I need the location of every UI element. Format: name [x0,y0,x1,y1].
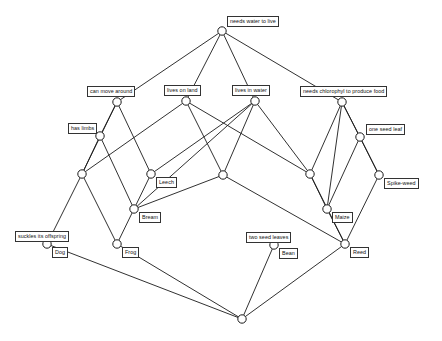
lattice-canvas [0,0,442,341]
lattice-node[interactable] [113,240,121,248]
lattice-node[interactable] [219,171,227,179]
node-label-dog: Dog [52,247,68,258]
node-label-reed: Reed [350,247,369,258]
lattice-edge [138,177,219,208]
lattice-edge [84,178,115,240]
node-label-bean: Bean [279,248,298,259]
concept-lattice-diagram: needs water to livecan move aroundlives … [0,0,442,341]
lattice-edge [84,140,98,170]
lattice-node[interactable] [375,171,383,179]
node-label-frog: Frog [122,247,139,258]
lattice-edge [244,249,273,315]
lattice-edge [119,213,132,240]
lattice-node[interactable] [147,170,155,178]
lattice-edge [362,141,377,171]
lattice-edge [137,104,252,206]
lattice-edge [188,105,221,171]
edges-group [49,33,377,317]
node-label-move: can move around [87,86,135,97]
lattice-node[interactable] [130,205,138,213]
node-label-top: needs water to live [227,16,279,27]
node-label-limbs: has limbs [68,123,97,134]
node-label-suckles-label: suckles its offspring [15,231,69,242]
lattice-edge [329,141,359,205]
node-label-water: lives in water [232,85,270,96]
lattice-edge [190,103,307,172]
node-label-chloro: needs chlorophyl to produce food [300,86,387,97]
lattice-edge [328,106,342,205]
lattice-node[interactable] [238,315,246,323]
lattice-node[interactable] [113,98,121,106]
node-label-spikeweed: Spike-weed [384,178,419,189]
node-label-twoseed-label: two seed leaves [246,232,291,243]
lattice-node[interactable] [356,133,364,141]
lattice-node[interactable] [78,170,86,178]
lattice-node[interactable] [251,97,259,105]
node-label-bream: Bream [139,212,161,223]
lattice-node[interactable] [182,97,190,105]
lattice-node[interactable] [341,240,349,248]
lattice-node[interactable] [338,98,346,106]
node-label-leech: Leech [156,177,177,188]
lattice-node[interactable] [323,205,331,213]
lattice-edge [258,104,308,170]
lattice-edge [312,106,341,170]
lattice-edge [154,103,251,171]
lattice-node[interactable] [306,170,314,178]
lattice-node[interactable] [218,27,226,35]
node-label-land: lives on land [164,85,201,96]
node-label-oneseed: one seed leaf [366,124,405,135]
lattice-edge [51,246,238,318]
node-label-maize: Maize [332,212,353,223]
lattice-edge [347,179,377,240]
